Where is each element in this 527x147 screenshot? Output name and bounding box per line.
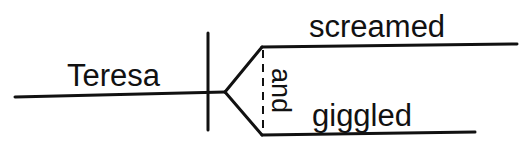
predicate-upper-line bbox=[262, 44, 517, 47]
conjunction-word: and bbox=[266, 68, 296, 113]
predicate-word-upper: screamed bbox=[309, 9, 445, 44]
subject-word: Teresa bbox=[67, 58, 161, 93]
sentence-diagram: Teresa screamed giggled and bbox=[0, 0, 527, 147]
fork-lower-branch bbox=[225, 92, 262, 135]
predicate-word-lower: giggled bbox=[312, 98, 412, 133]
fork-upper-branch bbox=[225, 47, 262, 92]
